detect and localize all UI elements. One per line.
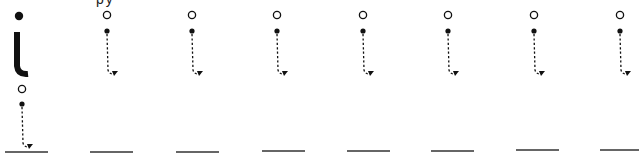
trace-letter-i <box>530 11 545 76</box>
start-dot-icon <box>445 28 450 33</box>
start-circle-icon <box>18 85 25 92</box>
dotted-stroke-path <box>363 34 369 74</box>
start-circle-icon <box>444 11 451 18</box>
start-circle-icon <box>359 11 366 18</box>
dotted-stroke-path <box>107 34 113 74</box>
trace-letter-i <box>359 11 374 76</box>
model-letter-i <box>15 12 28 74</box>
trace-letter-i <box>103 11 118 76</box>
arrowhead-icon <box>282 71 288 76</box>
dotted-stroke-path <box>534 34 540 74</box>
arrowhead-icon <box>112 71 118 76</box>
trace-letter-i <box>444 11 459 76</box>
trace-row-2 <box>18 85 33 149</box>
arrowhead-icon <box>625 71 631 76</box>
start-circle-icon <box>616 11 623 18</box>
start-circle-icon <box>530 11 537 18</box>
trace-row-1 <box>103 11 631 76</box>
dotted-stroke-path <box>277 34 283 74</box>
letter-tracing-worksheet <box>0 0 639 168</box>
arrowhead-icon <box>453 71 459 76</box>
start-dot-icon <box>189 28 194 33</box>
start-dot-icon <box>104 28 109 33</box>
dotted-stroke-path <box>448 34 454 74</box>
start-dot-icon <box>19 101 24 106</box>
arrowhead-icon <box>368 71 374 76</box>
start-dot-icon <box>617 28 622 33</box>
trace-letter-i <box>18 85 33 149</box>
letter-dot <box>15 12 23 20</box>
arrowhead-icon <box>539 71 545 76</box>
arrowhead-icon <box>197 71 203 76</box>
start-dot-icon <box>274 28 279 33</box>
start-dot-icon <box>360 28 365 33</box>
start-circle-icon <box>273 11 280 18</box>
writing-baselines <box>5 150 639 152</box>
start-dot-icon <box>531 28 536 33</box>
start-circle-icon <box>103 11 110 18</box>
letter-stem <box>17 32 28 74</box>
dotted-stroke-path <box>22 107 28 147</box>
start-circle-icon <box>188 11 195 18</box>
dotted-stroke-path <box>192 34 198 74</box>
trace-letter-i <box>273 11 288 76</box>
arrowhead-icon <box>27 144 33 149</box>
dotted-stroke-path <box>620 34 626 74</box>
trace-letter-i <box>616 11 631 76</box>
trace-letter-i <box>188 11 203 76</box>
